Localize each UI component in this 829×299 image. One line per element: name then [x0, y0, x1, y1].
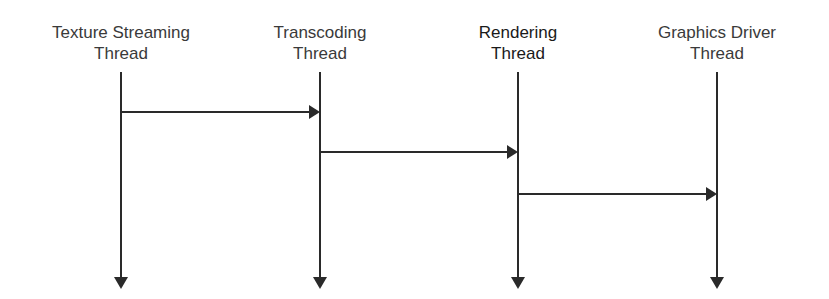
lifeline-transcoding: [313, 72, 327, 289]
message-transcoding-to-rendering: [320, 145, 518, 159]
sequence-diagram-canvas: [0, 0, 829, 299]
arrow-right-icon: [309, 105, 320, 119]
arrow-down-icon: [710, 277, 724, 289]
arrow-down-icon: [313, 277, 327, 289]
arrow-right-icon: [706, 187, 717, 201]
lifeline-rendering: [511, 72, 525, 289]
arrow-down-icon: [114, 277, 128, 289]
arrow-right-icon: [507, 145, 518, 159]
lifeline-graphics-driver: [710, 72, 724, 289]
lifeline-texture-streaming: [114, 72, 128, 289]
arrow-down-icon: [511, 277, 525, 289]
message-texture-to-transcoding: [121, 105, 320, 119]
message-rendering-to-driver: [518, 187, 717, 201]
